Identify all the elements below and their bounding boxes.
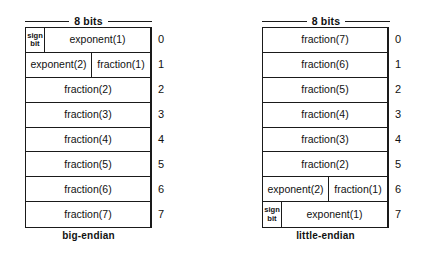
fraction-field: fraction(7): [26, 202, 151, 227]
fraction-field: fraction(3): [263, 128, 388, 152]
byte-index-label: 3: [395, 103, 415, 127]
fraction-field: fraction(3): [26, 103, 151, 127]
bits-width-label: 8 bits: [312, 16, 341, 27]
byte-row: sign bit exponent(1) 7: [263, 202, 388, 227]
byte-row: fraction(4) 3: [263, 103, 388, 128]
byte-row: fraction(6) 1: [263, 53, 388, 78]
fraction-1-field: fraction(1): [329, 177, 388, 201]
fraction-field: fraction(4): [26, 128, 151, 152]
byte-row: fraction(3) 4: [263, 128, 388, 153]
byte-stack-little-endian: fraction(7) 0 fraction(6) 1 fraction(5) …: [262, 27, 389, 228]
byte-row: fraction(5) 2: [263, 78, 388, 103]
fraction-field: fraction(5): [263, 78, 388, 102]
sign-bit-label-line2: bit: [30, 40, 39, 48]
byte-stack-big-endian: sign bit exponent(1) 0 exponent(2) fract…: [25, 27, 152, 228]
byte-index-label: 7: [395, 202, 415, 227]
byte-index-label: 6: [395, 177, 415, 201]
byte-row: exponent(2) fraction(1) 1: [26, 53, 151, 78]
byte-row: sign bit exponent(1) 0: [26, 28, 151, 53]
byte-row: fraction(7) 7: [26, 202, 151, 227]
byte-index-label: 2: [158, 78, 178, 102]
byte-row: fraction(6) 6: [26, 177, 151, 202]
byte-index-label: 1: [158, 53, 178, 77]
byte-index-label: 0: [158, 28, 178, 52]
byte-row: exponent(2) fraction(1) 6: [263, 177, 388, 202]
sign-bit-field: sign bit: [263, 202, 282, 227]
byte-row: fraction(4) 4: [26, 128, 151, 153]
byte-row: fraction(2) 2: [26, 78, 151, 103]
byte-index-label: 7: [158, 202, 178, 227]
byte-index-label: 4: [158, 128, 178, 152]
fraction-field: fraction(2): [263, 152, 388, 176]
fraction-1-field: fraction(1): [92, 53, 151, 77]
sign-bit-field: sign bit: [26, 28, 45, 52]
byte-index-label: 3: [158, 103, 178, 127]
byte-index-label: 5: [395, 152, 415, 176]
bits-width-label: 8 bits: [74, 16, 103, 27]
bits-rule-right-icon: [108, 21, 152, 22]
fraction-field: fraction(6): [26, 177, 151, 201]
byte-index-label: 4: [395, 128, 415, 152]
sign-bit-label-line2: bit: [267, 215, 276, 223]
byte-index-label: 2: [395, 78, 415, 102]
byte-index-label: 6: [158, 177, 178, 201]
byte-row: fraction(2) 5: [263, 152, 388, 177]
exponent-1-field: exponent(1): [45, 28, 151, 52]
byte-row: fraction(7) 0: [263, 28, 388, 53]
byte-index-label: 1: [395, 53, 415, 77]
byte-index-label: 5: [158, 152, 178, 176]
bits-rule-right-icon: [345, 21, 390, 22]
bits-rule-left-icon: [25, 21, 69, 22]
exponent-2-field: exponent(2): [263, 177, 329, 201]
fraction-field: fraction(4): [263, 103, 388, 127]
exponent-1-field: exponent(1): [282, 202, 388, 227]
fraction-field: fraction(7): [263, 28, 388, 52]
byte-index-label: 0: [395, 28, 415, 52]
byte-row: fraction(3) 3: [26, 103, 151, 128]
bits-width-header-little-endian: 8 bits: [262, 14, 390, 28]
fraction-field: fraction(5): [26, 152, 151, 176]
exponent-2-field: exponent(2): [26, 53, 92, 77]
fraction-field: fraction(6): [263, 53, 388, 77]
diagram-caption-big-endian: big-endian: [25, 230, 152, 241]
fraction-field: fraction(2): [26, 78, 151, 102]
big-endian-diagram: 8 bits sign bit exponent(1) 0 exponent(2…: [0, 0, 215, 263]
byte-row: fraction(5) 5: [26, 152, 151, 177]
bits-rule-left-icon: [262, 21, 307, 22]
diagram-caption-little-endian: little-endian: [262, 230, 389, 241]
little-endian-diagram: 8 bits fraction(7) 0 fraction(6) 1 fract…: [215, 0, 429, 263]
bits-width-header-big-endian: 8 bits: [25, 14, 152, 28]
